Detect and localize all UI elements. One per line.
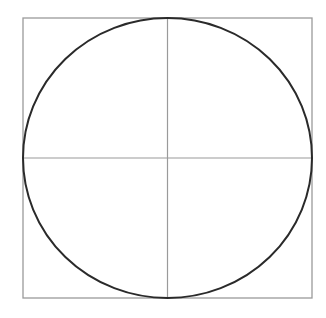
diagram-canvas xyxy=(0,0,326,318)
